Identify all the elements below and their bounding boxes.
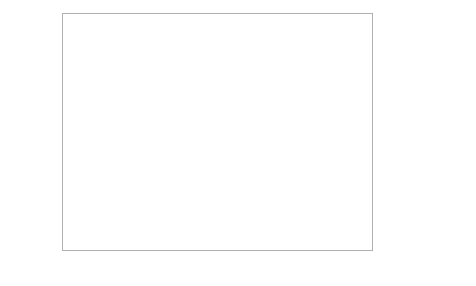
legend-color-key xyxy=(389,146,407,148)
plot-area xyxy=(63,14,372,250)
line-chart xyxy=(0,0,476,286)
legend-color-key xyxy=(389,128,407,130)
y-axis-title xyxy=(0,0,18,286)
legend-item-gold[interactable] xyxy=(389,128,414,130)
plot-panel xyxy=(62,13,373,251)
legend-item-hybrid[interactable] xyxy=(389,146,414,148)
